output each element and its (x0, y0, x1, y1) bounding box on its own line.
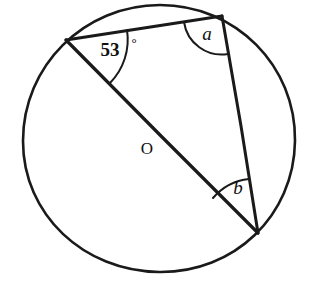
angle-label-a: a (202, 23, 212, 44)
angle-label-b: b (233, 177, 243, 198)
chord-left-to-top (66, 16, 222, 40)
circle-geometry-figure: 53 ° a b O (0, 0, 321, 295)
degree-symbol-icon: ° (131, 35, 136, 50)
angle-label-53: 53 (101, 39, 120, 60)
diameter-left-to-bottom (66, 40, 258, 233)
circle-outline (23, 5, 295, 272)
circle-center-label: O (141, 139, 153, 158)
geometry-diagram: 53 ° a b O (0, 0, 321, 295)
